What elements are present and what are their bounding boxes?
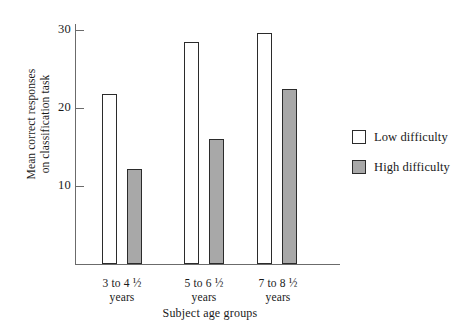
y-axis-title-line1: Mean correct responses [25,69,37,180]
x-category-label-1-line1: 3 to 4 ½ [103,277,142,289]
x-category-label-3: 7 to 8 ½ years [233,276,323,304]
legend-swatch-high-difficulty-icon [352,160,366,174]
x-category-label-1: 3 to 4 ½ years [77,276,167,304]
y-axis-title-line2: on classification task [38,24,52,224]
bar-low-difficulty-group-2 [184,42,199,264]
x-axis-line [75,264,340,265]
y-tick-mark-20 [76,108,84,109]
y-tick-mark-10 [76,186,84,187]
legend-item-low-difficulty: Low difficulty [352,128,463,158]
x-category-label-3-line1: 7 to 8 ½ [259,277,298,289]
x-axis-title: Subject age groups [110,306,310,321]
legend-label-high-difficulty: High difficulty [374,159,450,175]
bar-high-difficulty-group-3 [282,89,297,264]
bar-high-difficulty-group-2 [209,139,224,264]
bar-high-difficulty-group-1 [127,169,142,264]
x-category-label-2-line1: 5 to 6 ½ [185,277,224,289]
legend-label-low-difficulty: Low difficulty [374,129,448,145]
y-axis-title: Mean correct responses on classification… [24,24,52,224]
bar-low-difficulty-group-3 [257,33,272,264]
bar-low-difficulty-group-1 [102,94,117,264]
legend-swatch-low-difficulty-icon [352,130,366,144]
bar-chart-figure: 30 20 10 3 to 4 ½ years 5 to 6 ½ years [0,0,463,328]
x-category-label-3-line2: years [233,290,323,304]
legend-item-high-difficulty: High difficulty [352,158,463,188]
y-tick-mark-30 [76,30,84,31]
x-category-label-1-line2: years [77,290,167,304]
y-axis-line [75,24,76,265]
legend: Low difficulty High difficulty [352,128,463,188]
